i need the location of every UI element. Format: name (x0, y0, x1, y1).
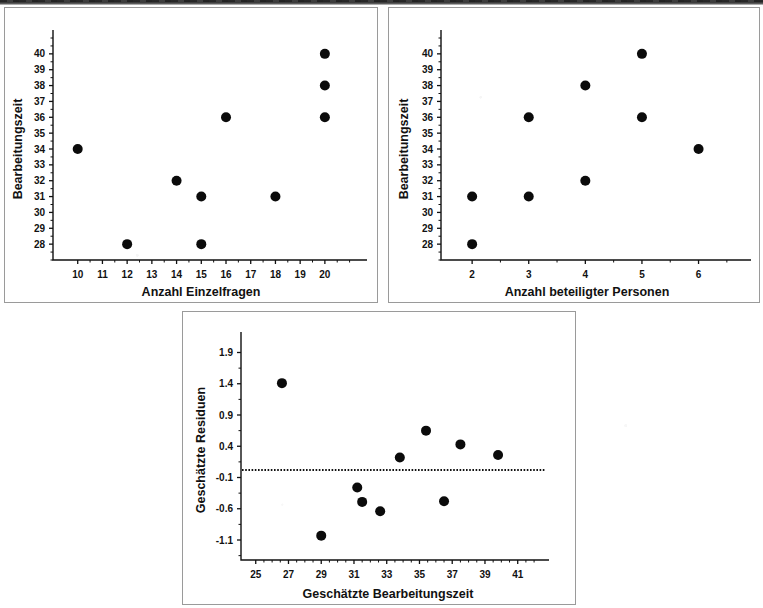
data-point (455, 439, 465, 449)
data-point (196, 192, 206, 202)
y-tick-label: -0.1 (216, 472, 234, 483)
y-tick-label: 38 (422, 80, 434, 91)
y-axis-title: Geschätzte Residuen (194, 387, 208, 513)
plot-area-panel-3: 252729313335373941-1.1-0.6-0.10.40.91.41… (183, 312, 575, 604)
data-point (421, 426, 431, 436)
y-tick-label: 32 (422, 175, 434, 186)
y-axis-title: Bearbeitungszeit (397, 98, 411, 200)
x-axis-title: Geschätzte Bearbeitungszeit (303, 587, 475, 601)
data-point (320, 81, 330, 91)
y-axis-title: Bearbeitungszeit (11, 98, 25, 200)
x-tick-label: 2 (469, 269, 475, 280)
data-point (467, 192, 477, 202)
data-point (375, 506, 385, 516)
y-tick-label: 36 (34, 112, 46, 123)
x-tick-label: 19 (295, 269, 307, 280)
data-point (694, 144, 704, 154)
data-point (196, 239, 206, 249)
x-tick-label: 13 (146, 269, 158, 280)
y-tick-label: 31 (422, 191, 434, 202)
data-point (221, 112, 231, 122)
y-tick-label: 40 (422, 48, 434, 59)
data-point (637, 49, 647, 59)
y-tick-label: 33 (422, 159, 434, 170)
y-tick-label: 28 (34, 239, 46, 250)
x-tick-label: 15 (196, 269, 208, 280)
data-point (316, 531, 326, 541)
data-point (73, 144, 83, 154)
y-tick-label: 33 (34, 159, 46, 170)
data-point (467, 239, 477, 249)
y-tick-label: 0.4 (219, 441, 233, 452)
x-tick-label: 25 (250, 569, 262, 580)
data-point (395, 453, 405, 463)
x-axis-title: Anzahl beteiligter Personen (505, 285, 670, 299)
y-tick-label: 39 (34, 64, 46, 75)
y-tick-label: -1.1 (216, 535, 234, 546)
y-tick-label: 29 (34, 223, 46, 234)
data-point (277, 378, 287, 388)
x-tick-label: 33 (381, 569, 393, 580)
x-tick-label: 6 (696, 269, 702, 280)
x-tick-label: 3 (526, 269, 532, 280)
x-tick-label: 35 (414, 569, 426, 580)
y-tick-label: 30 (34, 207, 46, 218)
y-tick-label: 39 (422, 64, 434, 75)
plot-area-panel-2: 2345628293031323334353637383940Anzahl be… (389, 8, 759, 302)
data-point (270, 192, 280, 202)
x-tick-label: 11 (97, 269, 108, 280)
y-tick-label: 34 (422, 144, 434, 155)
data-point (524, 112, 534, 122)
data-point (580, 176, 590, 186)
x-tick-label: 10 (72, 269, 84, 280)
x-tick-label: 4 (583, 269, 589, 280)
x-tick-label: 29 (316, 569, 328, 580)
y-tick-label: 29 (422, 223, 434, 234)
x-axis-title: Anzahl Einzelfragen (142, 285, 261, 299)
y-tick-label: 1.9 (219, 347, 233, 358)
data-point (320, 112, 330, 122)
data-point (352, 483, 362, 493)
y-tick-label: 37 (422, 96, 434, 107)
data-point (122, 239, 132, 249)
plot-area-panel-1: 1011121314151617181920282930313233343536… (5, 8, 377, 302)
scan-artifact-band (0, 0, 763, 5)
x-tick-label: 27 (283, 569, 295, 580)
residual-panel-geschaetzte-residuen: 252729313335373941-1.1-0.6-0.10.40.91.41… (182, 311, 576, 605)
x-tick-label: 41 (512, 569, 524, 580)
y-tick-label: 34 (34, 144, 46, 155)
data-point (357, 497, 367, 507)
y-tick-label: -0.6 (216, 503, 234, 514)
x-tick-label: 16 (220, 269, 232, 280)
y-tick-label: 31 (34, 191, 46, 202)
y-tick-label: 0.9 (219, 410, 233, 421)
y-tick-label: 30 (422, 207, 434, 218)
y-tick-label: 35 (422, 128, 434, 139)
data-point (493, 450, 503, 460)
x-tick-label: 5 (639, 269, 645, 280)
x-tick-label: 18 (270, 269, 282, 280)
x-tick-label: 39 (479, 569, 491, 580)
x-tick-label: 37 (447, 569, 459, 580)
axis-spines (441, 30, 751, 260)
scatter-panel-anzahl-beteiligter-personen: 2345628293031323334353637383940Anzahl be… (388, 7, 760, 303)
y-tick-label: 35 (34, 128, 46, 139)
data-point (580, 81, 590, 91)
data-point (439, 496, 449, 506)
data-point (637, 112, 647, 122)
data-point (524, 192, 534, 202)
data-point (172, 176, 182, 186)
data-point (320, 49, 330, 59)
y-tick-label: 37 (34, 96, 46, 107)
y-tick-label: 36 (422, 112, 434, 123)
y-tick-label: 38 (34, 80, 46, 91)
y-tick-label: 40 (34, 48, 46, 59)
axis-spines (241, 332, 549, 560)
x-tick-label: 17 (245, 269, 257, 280)
x-tick-label: 31 (348, 569, 360, 580)
y-tick-label: 1.4 (219, 378, 233, 389)
y-tick-label: 28 (422, 239, 434, 250)
axis-spines (53, 30, 367, 260)
x-tick-label: 20 (319, 269, 331, 280)
x-tick-label: 14 (171, 269, 183, 280)
